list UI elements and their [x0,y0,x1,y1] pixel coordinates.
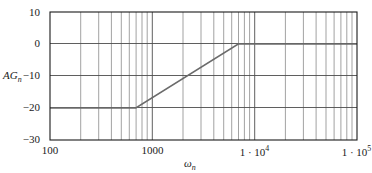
y-tick-label-minus-30: −30 [6,134,40,145]
y-axis-title-main: AG [3,69,18,81]
x-tick-exponent-1e4: 4 [265,144,269,153]
y-axis-title: AGn [3,70,22,84]
y-tick-label-minus-20: −20 [6,102,40,113]
x-tick-mantissa-1e5: 1 · 10 [342,146,368,158]
y-axis-title-sub: n [18,75,22,84]
x-tick-label-1e4: 1 · 104 [223,145,286,158]
x-axis-title-sub: n [192,163,196,172]
plot-area-background [50,12,357,140]
x-tick-mantissa-1e4: 1 · 10 [240,146,266,158]
bode-magnitude-figure: 10 0 −10 −20 −30 100 1000 1 · 104 1 · 10… [0,0,372,173]
x-tick-exponent-1e5: 5 [367,144,371,153]
x-axis-title: ωn [184,158,196,172]
x-tick-label-1000: 1000 [128,145,177,156]
x-axis-title-main: ω [184,157,192,169]
x-tick-label-1e5: 1 · 105 [325,145,372,158]
y-tick-label-10: 10 [6,7,40,18]
y-tick-label-0: 0 [6,38,40,49]
x-tick-label-100: 100 [30,145,70,156]
